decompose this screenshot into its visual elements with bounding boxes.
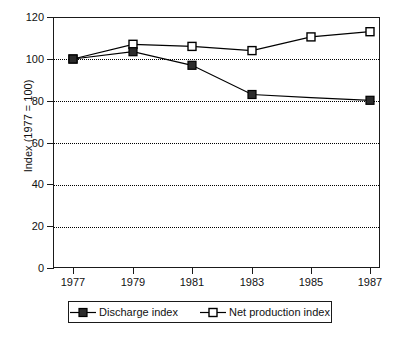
- chart-figure: Index (1977 = 100) 120 100 80 60 40 20 0: [0, 0, 394, 338]
- gridline-80: [54, 101, 379, 102]
- y-tick-label-80: 80: [4, 96, 44, 107]
- legend-label-discharge-index: Discharge index: [98, 306, 178, 318]
- x-tick-mark-1981: [192, 268, 193, 274]
- x-tick-label-1981: 1981: [169, 276, 215, 288]
- chart-legend: Discharge index Net production index: [68, 301, 332, 323]
- y-tick-mark-0: [47, 268, 54, 269]
- x-tick-label-1983: 1983: [229, 276, 275, 288]
- y-tick-label-20: 20: [4, 221, 44, 232]
- y-tick-label-60: 60: [4, 138, 44, 149]
- x-tick-mark-1979: [133, 268, 134, 274]
- x-tick-mark-1977: [73, 268, 74, 274]
- gridline-100: [54, 59, 379, 60]
- x-tick-label-1977: 1977: [50, 276, 96, 288]
- legend-item-discharge-index: Discharge index: [70, 306, 178, 318]
- y-tick-label-120: 120: [4, 12, 44, 23]
- x-tick-mark-1987: [370, 268, 371, 274]
- x-tick-label-1985: 1985: [288, 276, 334, 288]
- legend-marker-open-square-icon: [200, 307, 226, 318]
- plot-area: [53, 17, 380, 268]
- legend-item-net-production-index: Net production index: [200, 306, 330, 318]
- gridline-40: [54, 185, 379, 186]
- x-tick-mark-1985: [311, 268, 312, 274]
- y-tick-label-100: 100: [4, 54, 44, 65]
- legend-label-net-production-index: Net production index: [228, 306, 330, 318]
- x-tick-label-1987: 1987: [347, 276, 393, 288]
- gridline-60: [54, 143, 379, 144]
- legend-marker-filled-square-icon: [70, 307, 96, 318]
- gridline-20: [54, 227, 379, 228]
- x-tick-label-1979: 1979: [110, 276, 156, 288]
- x-tick-mark-1983: [252, 268, 253, 274]
- y-tick-label-0: 0: [4, 263, 44, 274]
- y-tick-label-40: 40: [4, 179, 44, 190]
